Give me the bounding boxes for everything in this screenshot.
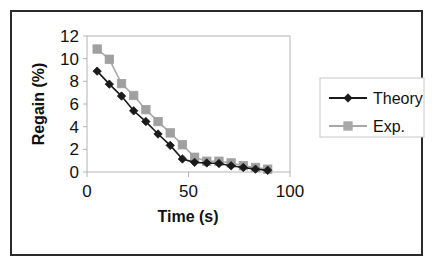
y-tick-label: 8 xyxy=(70,72,79,91)
y-axis-title: Regain (%) xyxy=(30,63,47,146)
data-point-marker xyxy=(117,79,125,87)
y-tick-label: 10 xyxy=(60,50,79,69)
x-axis-tick-labels: 050100 xyxy=(82,182,304,201)
data-point-marker xyxy=(154,117,162,125)
legend-label: Exp. xyxy=(373,118,405,135)
data-point-marker xyxy=(105,55,113,63)
legend-box xyxy=(320,78,424,137)
x-axis-ticks xyxy=(87,172,290,177)
data-point-marker xyxy=(93,45,101,53)
y-tick-label: 0 xyxy=(70,163,79,182)
legend-label: Theory xyxy=(373,90,423,107)
chart-legend: TheoryExp. xyxy=(320,78,424,137)
y-axis-tick-labels: 024681012 xyxy=(60,27,79,182)
data-point-marker xyxy=(166,129,174,137)
x-axis-title: Time (s) xyxy=(157,208,218,225)
y-tick-label: 6 xyxy=(70,95,79,114)
data-point-marker xyxy=(142,105,150,113)
data-point-marker xyxy=(178,141,186,149)
x-tick-label: 50 xyxy=(179,182,198,201)
chart-canvas: 024681012 050100 Time (s) Regain (%) The… xyxy=(0,0,434,271)
data-point-marker xyxy=(344,122,352,130)
y-tick-label: 2 xyxy=(70,140,79,159)
x-tick-label: 0 xyxy=(82,182,91,201)
y-tick-label: 4 xyxy=(70,118,79,137)
data-point-marker xyxy=(129,91,137,99)
y-tick-label: 12 xyxy=(60,27,79,46)
x-tick-label: 100 xyxy=(276,182,304,201)
figure-container: 024681012 050100 Time (s) Regain (%) The… xyxy=(0,0,434,271)
y-axis-ticks xyxy=(83,36,87,172)
